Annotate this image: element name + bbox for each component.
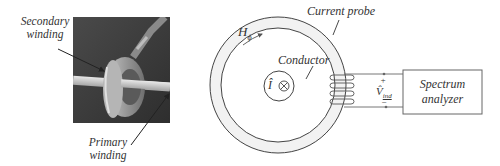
h-field-label: Hϕ	[238, 25, 252, 44]
h-subscript: ϕ	[247, 33, 251, 42]
analyzer-line2: analyzer	[422, 92, 463, 106]
primary-winding-arrow	[131, 94, 169, 145]
spectrum-analyzer-label: Spectrum analyzer	[403, 77, 482, 107]
current-symbol: Î	[268, 79, 272, 92]
conductor-label: Conductor	[278, 54, 329, 67]
current-probe-label: Current probe	[307, 5, 375, 18]
analyzer-line1: Spectrum	[420, 77, 465, 91]
minus-sign: −	[381, 96, 387, 109]
secondary-winding-arrow	[58, 49, 104, 71]
current-probe-arrow	[333, 20, 339, 35]
h-symbol: H	[238, 24, 247, 39]
